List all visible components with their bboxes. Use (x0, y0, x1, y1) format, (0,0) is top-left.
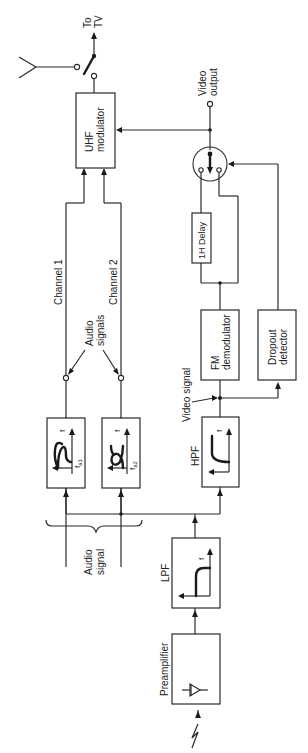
fm-demodulator-label: FM (210, 356, 221, 370)
delay-label: 1H Delay (197, 221, 207, 259)
bandpass-filter-1-block: f fa1 (47, 418, 85, 488)
video-signal-label: Video signal (181, 368, 192, 422)
antenna-icon (19, 57, 74, 78)
to-tv-label: To (82, 17, 93, 28)
to-tv-label-line2: TV (93, 15, 104, 28)
tape-head-signal-icon (192, 724, 198, 748)
lpf-block: LPF f (160, 538, 220, 608)
lpf-label: LPF (160, 564, 171, 582)
fm-demodulator-block: FM demodulator (201, 310, 239, 380)
video-output-label-line2: output (208, 68, 219, 96)
delay-block: 1H Delay (192, 213, 211, 263)
uhf-modulator-block: UHF modulator (76, 93, 115, 168)
hpf-label: HPF (190, 446, 201, 466)
channel-2-label: Channel 2 (108, 259, 119, 305)
hpf-block: HPF f (190, 417, 239, 487)
dropout-switch-icon (193, 147, 227, 181)
audio-signals-label-line2: signals (95, 315, 106, 346)
audio-signal-brace (46, 520, 142, 532)
dropout-detector-block: Dropout detector (258, 310, 296, 380)
video-output-terminal (207, 101, 212, 106)
preamplifier-label: Preamplifier (159, 642, 170, 696)
bandpass-filter-2-block: f fa2 (102, 418, 140, 488)
audio-signal-label: Audio (83, 549, 94, 575)
switch-icon (74, 32, 97, 93)
audio-signals-label: Audio (84, 320, 95, 346)
channel-1-label: Channel 1 (53, 259, 64, 305)
uhf-modulator-label: UHF (84, 131, 95, 152)
audio-signal-label-line2: signal (95, 549, 106, 575)
dropout-detector-label: Dropout (267, 329, 278, 365)
preamplifier-block: Preamplifier (159, 634, 220, 704)
uhf-modulator-label-line2: modulator (95, 107, 106, 152)
fm-demodulator-label-line2: demodulator (221, 314, 232, 370)
dropout-detector-label-line2: detector (278, 328, 289, 365)
block-diagram: To TV UHF modulator Video output 1H Dela… (0, 0, 308, 753)
video-output-label: Video (197, 70, 208, 96)
